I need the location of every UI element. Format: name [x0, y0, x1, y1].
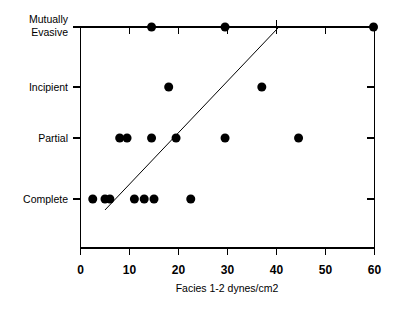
y-label-incipient: Incipient: [29, 81, 68, 93]
data-point: [147, 134, 156, 143]
data-point: [150, 195, 159, 204]
y-label-mutually-evasive-line2: Evasive: [31, 26, 68, 38]
trend-line: [105, 27, 279, 210]
data-points-layer: [88, 23, 378, 204]
data-point: [369, 23, 378, 32]
x-label-50: 50: [319, 263, 333, 277]
x-tick-labels: 0 10 20 30 40 50 60: [77, 263, 381, 277]
data-point: [294, 134, 303, 143]
data-point: [172, 134, 181, 143]
x-label-60: 60: [368, 263, 382, 277]
y-axis-ticks-right: [367, 87, 375, 199]
x-label-10: 10: [123, 263, 137, 277]
y-label-complete: Complete: [23, 193, 68, 205]
data-point: [221, 134, 230, 143]
data-point: [123, 134, 132, 143]
y-axis-ticks-left: [73, 27, 81, 199]
y-tick-labels: Mutually Evasive Incipient Partial Compl…: [23, 13, 69, 205]
x-label-30: 30: [221, 263, 235, 277]
y-label-partial: Partial: [38, 132, 68, 144]
data-point: [140, 195, 149, 204]
x-label-20: 20: [172, 263, 186, 277]
y-label-mutually-evasive-line1: Mutually: [29, 13, 69, 25]
data-point: [257, 83, 266, 92]
data-point: [105, 195, 114, 204]
x-label-0: 0: [77, 263, 84, 277]
scatter-chart: Mutually Evasive Incipient Partial Compl…: [0, 0, 398, 310]
x-axis-title: Facies 1-2 dynes/cm2: [176, 282, 279, 294]
x-label-40: 40: [270, 263, 284, 277]
trend-line-group: [105, 27, 279, 210]
data-point: [147, 23, 156, 32]
data-point: [221, 23, 230, 32]
data-point: [88, 195, 97, 204]
data-point: [164, 83, 173, 92]
data-point: [186, 195, 195, 204]
data-point: [130, 195, 139, 204]
plot-canvas: Mutually Evasive Incipient Partial Compl…: [0, 0, 398, 310]
